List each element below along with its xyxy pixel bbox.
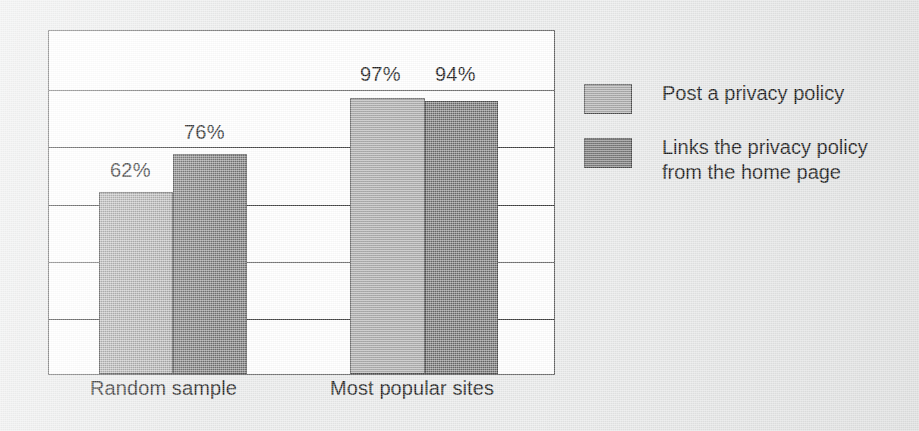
legend-item-post-a-privacy-policy[interactable]: Post a privacy policy [584,84,844,114]
legend-swatch-links-the-privacy-policy [584,138,632,168]
category-label-random-sample: Random sample [90,377,237,399]
value-label-random-sample-dark: 76% [184,122,225,142]
legend-label-links-the-privacy-policy: Links the privacy policy from the home p… [662,135,868,185]
bar-most-popular-sites-post-a-privacy-policy[interactable] [350,98,425,374]
value-label-most-popular-dark: 94% [435,64,476,84]
bar-most-popular-sites-links-the-privacy-policy[interactable] [425,101,498,374]
plot-area [48,30,555,375]
chart-figure: 62% 76% 97% 94% Random sample Most popul… [0,0,919,431]
gridline-1 [49,90,554,91]
value-label-random-sample-light: 62% [110,160,151,180]
category-label-most-popular-sites: Most popular sites [330,377,494,399]
legend-swatch-post-a-privacy-policy [584,84,632,114]
value-label-most-popular-light: 97% [360,64,401,84]
bar-random-sample-links-the-privacy-policy[interactable] [173,154,247,374]
legend-label-post-a-privacy-policy: Post a privacy policy [662,81,844,106]
legend-item-links-the-privacy-policy[interactable]: Links the privacy policy from the home p… [584,138,868,185]
bar-random-sample-post-a-privacy-policy[interactable] [99,192,173,374]
